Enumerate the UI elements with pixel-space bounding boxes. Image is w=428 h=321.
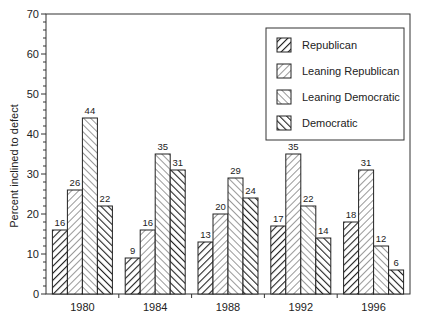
bar-group-1992: 17352214 — [271, 141, 331, 294]
bar-value-label: 9 — [130, 245, 135, 256]
bar — [52, 230, 67, 294]
bar — [344, 222, 359, 294]
bar-value-label: 31 — [361, 157, 372, 168]
y-axis: 010203040506070 — [27, 8, 46, 300]
y-tick-label: 10 — [27, 248, 39, 260]
bar-group-1988: 13202924 — [198, 165, 258, 294]
bar — [82, 118, 97, 294]
bar — [286, 154, 301, 294]
y-tick-label: 20 — [27, 208, 39, 220]
bar-value-label: 13 — [200, 229, 211, 240]
svg-text:Percent inclined to defect: Percent inclined to defect — [8, 104, 20, 228]
bar-value-label: 31 — [172, 157, 183, 168]
bar-group-1980: 16264422 — [52, 105, 112, 294]
bar-value-label: 16 — [55, 217, 66, 228]
bar — [140, 230, 155, 294]
legend-item: Republican — [277, 38, 357, 52]
legend-swatch — [277, 38, 291, 52]
x-tick-label: 1992 — [289, 301, 313, 313]
bar-value-label: 35 — [288, 141, 299, 152]
x-tick-label: 1988 — [216, 301, 240, 313]
bar — [359, 170, 374, 294]
legend-label: Leaning Democratic — [302, 91, 400, 103]
bar-value-label: 29 — [230, 165, 241, 176]
y-tick-label: 0 — [33, 288, 39, 300]
bar — [97, 206, 112, 294]
y-tick-label: 60 — [27, 48, 39, 60]
bar-group-1996: 1831126 — [344, 157, 404, 294]
legend-label: Republican — [302, 39, 357, 51]
bar — [271, 226, 286, 294]
bar-chart: Percent inclined to defect 0102030405060… — [0, 0, 428, 321]
bar — [198, 242, 213, 294]
bar-value-label: 14 — [318, 225, 329, 236]
legend-swatch — [277, 116, 291, 130]
x-tick-label: 1980 — [70, 301, 94, 313]
bar — [155, 154, 170, 294]
legend-swatch — [277, 90, 291, 104]
bar-value-label: 22 — [303, 193, 314, 204]
y-axis-title: Percent inclined to defect — [8, 104, 20, 228]
x-tick-label: 1996 — [361, 301, 385, 313]
legend-swatch — [277, 64, 291, 78]
bar — [243, 198, 258, 294]
bar-value-label: 35 — [157, 141, 168, 152]
y-tick-label: 40 — [27, 128, 39, 140]
bar-value-label: 26 — [70, 177, 81, 188]
y-tick-label: 70 — [27, 8, 39, 20]
bar — [125, 258, 140, 294]
bar-group-1984: 9163531 — [125, 141, 185, 294]
bar — [316, 238, 331, 294]
bar-value-label: 17 — [273, 213, 284, 224]
legend: RepublicanLeaning RepublicanLeaning Demo… — [266, 28, 404, 140]
bar-value-label: 12 — [376, 233, 387, 244]
legend-label: Leaning Republican — [302, 65, 399, 77]
bar-value-label: 44 — [85, 105, 96, 116]
y-tick-label: 50 — [27, 88, 39, 100]
bar — [374, 246, 389, 294]
bar-value-label: 16 — [142, 217, 153, 228]
bar — [170, 170, 185, 294]
x-axis: 19801984198819921996 — [70, 294, 386, 313]
bar-value-label: 22 — [100, 193, 111, 204]
y-tick-label: 30 — [27, 168, 39, 180]
bar — [301, 206, 316, 294]
bar — [67, 190, 82, 294]
bar-value-label: 20 — [215, 201, 226, 212]
bar — [389, 270, 404, 294]
bar — [213, 214, 228, 294]
bar-value-label: 6 — [393, 257, 398, 268]
legend-item: Democratic — [277, 116, 358, 130]
bar-value-label: 18 — [346, 209, 357, 220]
legend-label: Democratic — [302, 117, 358, 129]
bar — [228, 178, 243, 294]
bar-value-label: 24 — [245, 185, 256, 196]
x-tick-label: 1984 — [143, 301, 167, 313]
